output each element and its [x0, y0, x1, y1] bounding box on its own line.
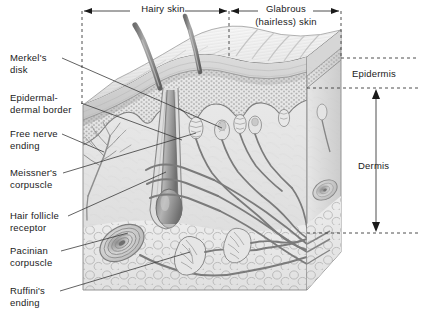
right-label-epidermis: Epidermis — [352, 68, 396, 80]
skin-side-face — [305, 30, 345, 290]
label-pacinian-corpuscle-line2: corpuscle — [10, 257, 52, 269]
label-merkels-disk-line1: Merkel's — [10, 52, 47, 64]
top-label-glabrous-line1: Glabrous — [246, 3, 326, 15]
label-ruffinis-ending-line1: Ruffini's — [10, 285, 45, 297]
label-hair-follicle-receptor-line1: Hair follicle — [10, 210, 59, 222]
top-label-glabrous-line2: (hairless) skin — [238, 16, 334, 28]
label-free-nerve-ending-line2: ending — [10, 140, 40, 152]
label-hair-follicle-receptor-line2: receptor — [10, 222, 46, 234]
label-merkels-disk-line2: disk — [10, 64, 28, 76]
skin-front-face — [83, 55, 307, 295]
label-ruffinis-ending-line2: ending — [10, 297, 40, 309]
top-label-hairy-skin: Hairy skin — [118, 3, 208, 15]
label-meissners-corpuscle-line2: corpuscle — [10, 179, 52, 191]
right-label-dermis: Dermis — [358, 160, 389, 172]
label-pacinian-corpuscle-line1: Pacinian — [10, 245, 48, 257]
skin-receptors-figure: Hairy skin Glabrous (hairless) skin Epid… — [0, 0, 421, 320]
label-epidermal-dermal-border-line2: dermal border — [10, 104, 72, 116]
label-epidermal-dermal-border-line1: Epidermal- — [10, 92, 58, 104]
label-meissners-corpuscle-line1: Meissner's — [10, 167, 57, 179]
label-free-nerve-ending-line1: Free nerve — [10, 128, 58, 140]
